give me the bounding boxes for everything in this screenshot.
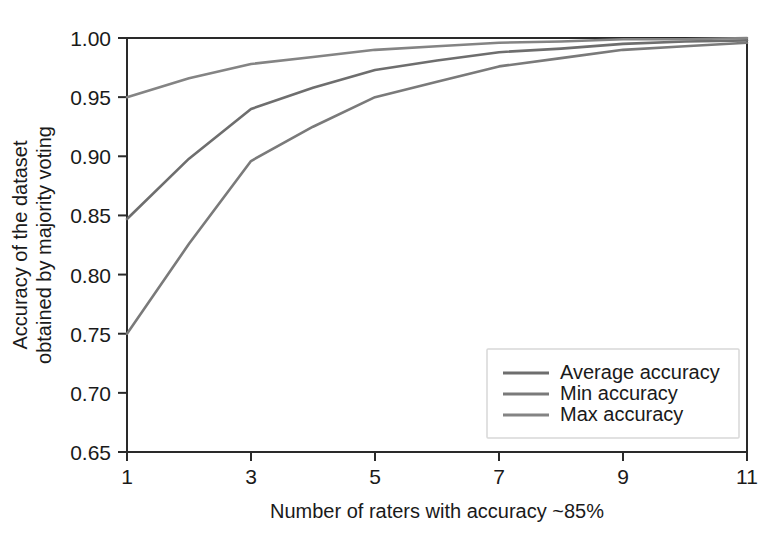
x-tick-label: 1 <box>121 465 133 488</box>
y-axis-title: Accuracy of the dataset obtained by majo… <box>9 126 55 364</box>
y-axis-ticks: 0.650.700.750.800.850.900.951.00 <box>70 27 127 464</box>
y-tick-label: 0.95 <box>70 86 111 109</box>
y-tick-label: 0.90 <box>70 145 111 168</box>
y-tick-label: 0.85 <box>70 204 111 227</box>
y-tick-label: 0.70 <box>70 382 111 405</box>
x-tick-label: 3 <box>245 465 257 488</box>
y-tick-label: 1.00 <box>70 27 111 50</box>
legend-label-average-accuracy: Average accuracy <box>560 361 720 383</box>
y-tick-label: 0.80 <box>70 264 111 287</box>
x-tick-label: 9 <box>617 465 629 488</box>
legend-label-min-accuracy: Min accuracy <box>560 382 678 404</box>
x-tick-label: 5 <box>369 465 381 488</box>
x-axis-title: Number of raters with accuracy ~85% <box>270 500 604 522</box>
x-axis-ticks: 1357911 <box>121 452 758 488</box>
data-series-group <box>127 38 747 334</box>
series-line-min-accuracy <box>127 43 747 334</box>
chart-figure: 0.650.700.750.800.850.900.951.00 1357911… <box>0 0 778 533</box>
y-tick-label: 0.75 <box>70 323 111 346</box>
x-tick-label: 7 <box>493 465 505 488</box>
series-line-average-accuracy <box>127 40 747 219</box>
y-tick-label: 0.65 <box>70 441 111 464</box>
x-tick-label: 11 <box>736 465 758 488</box>
y-axis-title-line1: Accuracy of the dataset <box>9 140 31 349</box>
legend-label-max-accuracy: Max accuracy <box>560 403 683 425</box>
chart-legend[interactable]: Average accuracyMin accuracyMax accuracy <box>487 349 739 438</box>
chart-canvas: 0.650.700.750.800.850.900.951.00 1357911… <box>0 0 778 533</box>
y-axis-title-line2: obtained by majority voting <box>33 126 55 364</box>
